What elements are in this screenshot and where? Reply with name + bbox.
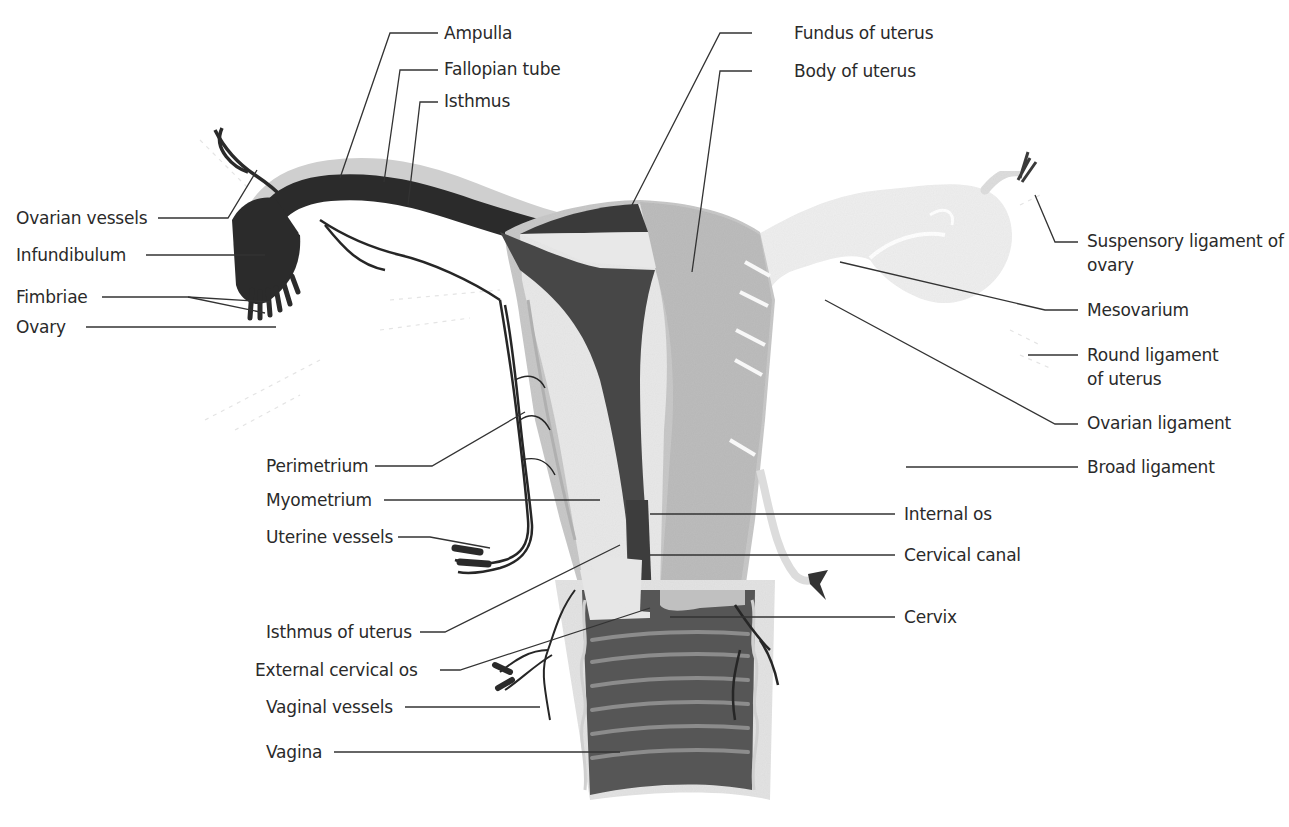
label-round-ligament: Round ligament of uterus — [1087, 343, 1237, 391]
right-adnexa — [740, 172, 1020, 303]
label-body-of-uterus: Body of uterus — [794, 61, 916, 82]
round-ligament-tail — [760, 470, 812, 581]
label-broad-ligament: Broad ligament — [1087, 457, 1215, 478]
label-external-cervical-os: External cervical os — [255, 660, 418, 681]
uterine-vessel-ends — [455, 548, 488, 564]
label-ovary: Ovary — [16, 317, 66, 338]
label-isthmus-of-uterus: Isthmus of uterus — [266, 622, 412, 643]
right-suspensory-vessel-tip — [1018, 152, 1036, 182]
label-cervix: Cervix — [904, 607, 957, 628]
label-infundibulum: Infundibulum — [16, 245, 126, 266]
label-fimbriae: Fimbriae — [16, 287, 88, 308]
label-myometrium: Myometrium — [266, 490, 372, 511]
label-mesovarium: Mesovarium — [1087, 300, 1189, 321]
label-ovarian-vessels: Ovarian vessels — [16, 208, 147, 229]
label-isthmus: Isthmus — [444, 91, 510, 112]
label-suspensory-ligament: Suspensory ligament of ovary — [1087, 229, 1287, 277]
label-internal-os: Internal os — [904, 504, 992, 525]
vaginal-vessels-left — [500, 590, 575, 720]
label-vaginal-vessels: Vaginal vessels — [266, 697, 393, 718]
label-fallopian-tube: Fallopian tube — [444, 59, 560, 80]
label-uterine-vessels: Uterine vessels — [266, 527, 393, 548]
label-vagina: Vagina — [266, 742, 322, 763]
tube-inner-highlight — [300, 209, 365, 235]
label-perimetrium: Perimetrium — [266, 456, 368, 477]
label-ampulla: Ampulla — [444, 23, 512, 44]
vagina-lumen — [582, 590, 755, 795]
left-ovarian-vessels — [215, 128, 285, 200]
label-cervical-canal: Cervical canal — [904, 545, 1021, 566]
round-ligament-tip — [808, 570, 828, 600]
label-fundus-of-uterus: Fundus of uterus — [794, 23, 933, 44]
label-ovarian-ligament: Ovarian ligament — [1087, 413, 1231, 434]
vaginal-vessel-ends-left — [495, 665, 512, 688]
